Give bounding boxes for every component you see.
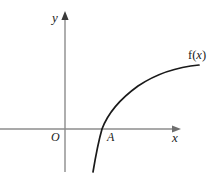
graph-figure: y x O A f(x) <box>0 0 224 186</box>
function-curve <box>93 65 199 172</box>
function-close-paren: ) <box>202 48 206 62</box>
function-curve-label: f(x) <box>188 49 206 62</box>
graph-canvas <box>0 0 224 186</box>
point-a-label: A <box>107 131 114 143</box>
x-axis-label: x <box>172 131 178 144</box>
y-axis-label: y <box>52 11 58 24</box>
origin-label: O <box>51 131 60 143</box>
y-axis-arrowhead <box>61 11 68 20</box>
